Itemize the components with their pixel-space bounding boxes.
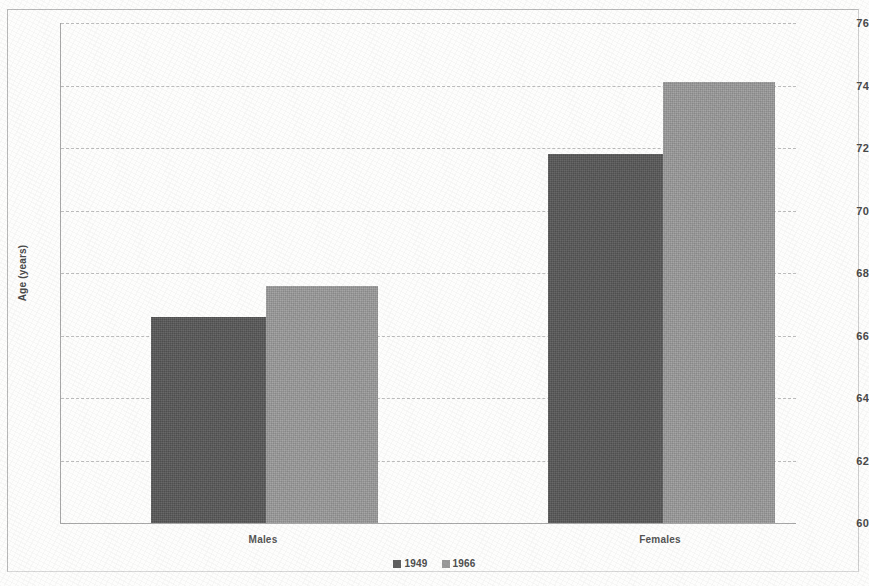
y-tick-74: 74	[827, 80, 869, 92]
y-tick-62: 62	[827, 455, 869, 467]
bar-females-1966[interactable]	[663, 82, 775, 523]
plot-area	[60, 23, 796, 524]
y-tick-68: 68	[827, 267, 869, 279]
y-tick-66: 66	[827, 330, 869, 342]
x-category-males: Males	[249, 534, 278, 545]
bar-chart: Age (years) 76 74 72 70 68 66 64 62 60 M…	[0, 0, 869, 586]
y-tick-72: 72	[827, 142, 869, 154]
bar-males-1966[interactable]	[266, 286, 378, 524]
bar-females-1949[interactable]	[548, 154, 663, 523]
legend-label-1966: 1966	[453, 558, 476, 569]
y-axis-title: Age (years)	[17, 245, 28, 302]
bar-males-1949[interactable]	[151, 317, 266, 523]
y-tick-64: 64	[827, 392, 869, 404]
x-category-females: Females	[639, 534, 680, 545]
legend-label-1949: 1949	[404, 558, 427, 569]
gridline-76	[61, 23, 796, 24]
legend-item-1966[interactable]: 1966	[442, 558, 476, 569]
chart-legend: 1949 1966	[0, 558, 869, 569]
legend-swatch-icon-1949	[393, 560, 401, 568]
y-tick-60: 60	[827, 517, 869, 529]
legend-item-1949[interactable]: 1949	[393, 558, 427, 569]
legend-swatch-icon-1966	[442, 560, 450, 568]
y-tick-70: 70	[827, 205, 869, 217]
y-tick-76: 76	[827, 17, 869, 29]
